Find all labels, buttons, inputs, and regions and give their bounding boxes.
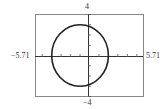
- x-min-label: −5.71: [11, 52, 30, 60]
- x-max-label: 5.71: [146, 52, 160, 60]
- y-max-label: 4: [85, 3, 89, 11]
- y-min-label: −4: [83, 99, 92, 107]
